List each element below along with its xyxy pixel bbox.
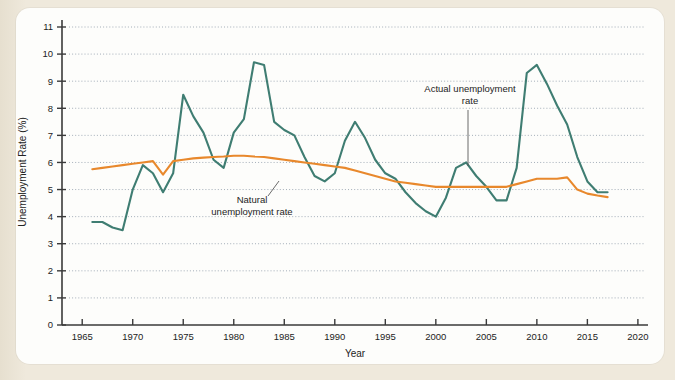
y-tick-label: 0	[48, 319, 53, 330]
x-tick-label: 2010	[526, 331, 547, 342]
y-tick-label: 10	[42, 48, 53, 59]
x-tick-label: 2000	[425, 331, 446, 342]
x-tick-label: 1995	[375, 331, 396, 342]
x-axis-title: Year	[345, 348, 366, 359]
x-tick-label: 2015	[577, 331, 598, 342]
annotation-label-natural-unemployment-rate-line2: unemployment rate	[211, 206, 292, 217]
series-line-natural	[92, 156, 607, 197]
annotation-leader-natural-unemployment-rate	[268, 181, 279, 196]
y-tick-label: 9	[48, 76, 53, 87]
data-series	[92, 62, 607, 230]
plot-area: 01234567891011 1965197019751980198519901…	[0, 0, 675, 380]
x-tick-label: 1990	[324, 331, 345, 342]
x-tick-label: 1970	[122, 331, 143, 342]
x-tick-label: 1985	[274, 331, 295, 342]
gridlines	[69, 27, 645, 298]
x-tick-label: 2005	[476, 331, 497, 342]
chart-figure: 01234567891011 1965197019751980198519901…	[0, 0, 675, 380]
x-tick-label: 2020	[627, 331, 648, 342]
y-tick-label: 1	[48, 292, 53, 303]
annotation-label-natural-unemployment-rate: Natural	[237, 194, 268, 205]
y-tick-label: 7	[48, 130, 53, 141]
y-tick-label: 6	[48, 157, 53, 168]
x-tick-label: 1975	[173, 331, 194, 342]
x-axis-ticks: 1965197019751980198519901995200020052010…	[72, 319, 649, 342]
y-tick-label: 11	[43, 21, 53, 32]
annotation-label-actual-unemployment-rate-line2: rate	[462, 95, 478, 106]
chart-annotations: Actual unemploymentrateNaturalunemployme…	[211, 83, 516, 217]
y-axis-title: Unemployment Rate (%)	[17, 117, 28, 226]
y-tick-label: 3	[48, 238, 53, 249]
x-tick-label: 1980	[223, 331, 244, 342]
series-line-actual	[92, 62, 607, 230]
y-tick-label: 8	[48, 103, 53, 114]
y-tick-label: 5	[48, 184, 53, 195]
annotation-label-actual-unemployment-rate: Actual unemployment	[424, 83, 516, 94]
x-tick-label: 1965	[72, 331, 93, 342]
y-tick-label: 4	[48, 211, 53, 222]
y-tick-label: 2	[48, 265, 53, 276]
chart-svg: 01234567891011 1965197019751980198519901…	[0, 0, 675, 380]
